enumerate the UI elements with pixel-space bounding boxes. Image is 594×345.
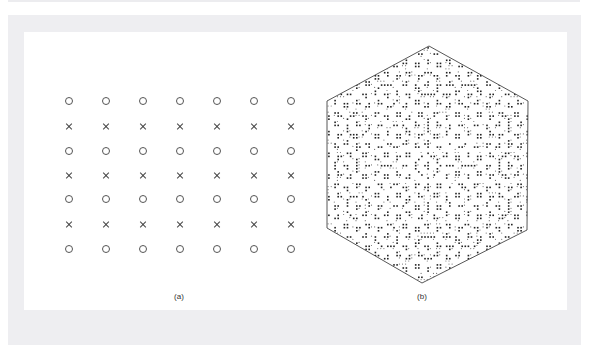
panel-b-caption: (b) (417, 292, 427, 301)
panel-b-quasicrystal-hexagon (0, 0, 594, 345)
